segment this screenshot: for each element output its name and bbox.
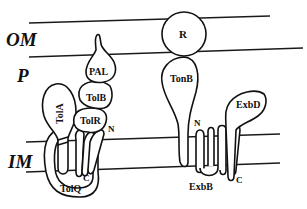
exbd-c-terminus: C — [236, 175, 243, 185]
region-label-p: P — [16, 65, 29, 86]
tolr-n-terminus: N — [108, 124, 115, 134]
tolr-c-terminus: C — [83, 173, 90, 183]
region-label-om: OM — [6, 29, 38, 50]
region-label-im: IM — [7, 151, 33, 172]
om-bottom-line — [29, 48, 303, 57]
membrane-diagram: OM P IM TolA TolR N C TolB PAL TolQ R To… — [0, 0, 307, 209]
tonb-n-terminus: N — [194, 118, 201, 128]
label-exbb: ExbB — [189, 181, 213, 192]
om-top-line — [29, 16, 270, 23]
label-tonb: TonB — [170, 73, 193, 84]
label-tolr: TolR — [80, 115, 102, 126]
label-receptor: R — [179, 28, 188, 40]
label-exbd: ExbD — [236, 99, 260, 110]
label-tolq: TolQ — [60, 183, 82, 194]
label-tola: TolA — [54, 102, 65, 124]
label-tolb: TolB — [86, 92, 107, 103]
label-pal: PAL — [89, 66, 109, 77]
exbb-helix-1 — [196, 130, 204, 173]
